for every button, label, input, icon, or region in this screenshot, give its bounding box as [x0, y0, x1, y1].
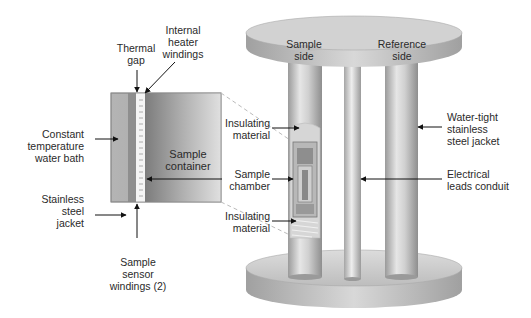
label-line: Insulating [214, 210, 270, 222]
label-line: side [372, 50, 432, 62]
label-line: Stainless [20, 193, 84, 205]
label-sample-side: Sample side [280, 38, 328, 62]
label-line: side [280, 50, 328, 62]
label-reference-side: Reference side [372, 38, 432, 62]
label-line: Sample [214, 168, 270, 180]
label-line: temperature [10, 140, 84, 152]
label-internal-heater-windings: Internal heater windings [158, 24, 208, 60]
label-line: steel jacket [447, 135, 527, 147]
label-insulating-material-top: Insulating material [214, 117, 270, 141]
label-line: material [214, 222, 270, 234]
label-line: container [158, 160, 218, 172]
label-line: windings (2) [102, 280, 174, 292]
label-line: leads conduit [447, 180, 527, 192]
label-line: material [214, 129, 270, 141]
label-line: Constant [10, 128, 84, 140]
label-line: steel [20, 205, 84, 217]
label-line: gap [111, 54, 161, 66]
label-line: windings [158, 48, 208, 60]
label-thermal-gap: Thermal gap [111, 42, 161, 66]
label-line: Insulating [214, 117, 270, 129]
label-electrical-leads-conduit: Electrical leads conduit [447, 168, 527, 192]
label-water-bath: Constant temperature water bath [10, 128, 84, 164]
label-stainless-steel-jacket: Stainless steel jacket [20, 193, 84, 229]
label-line: Sample [158, 148, 218, 160]
label-line: Water-tight [447, 111, 527, 123]
label-line: Sample [102, 256, 174, 268]
label-insulating-material-bottom: Insulating material [214, 210, 270, 234]
label-sample-container: Sample container [158, 148, 218, 172]
label-line: chamber [214, 180, 270, 192]
label-line: Internal [158, 24, 208, 36]
label-line: heater [158, 36, 208, 48]
label-line: water bath [10, 152, 84, 164]
label-line: jacket [20, 217, 84, 229]
label-line: Thermal [111, 42, 161, 54]
label-line: stainless [447, 123, 527, 135]
label-line: Reference [372, 38, 432, 50]
label-sample-chamber: Sample chamber [214, 168, 270, 192]
label-line: sensor [102, 268, 174, 280]
label-line: Electrical [447, 168, 527, 180]
label-water-tight-jacket: Water-tight stainless steel jacket [447, 111, 527, 147]
label-line: Sample [280, 38, 328, 50]
label-sample-sensor-windings: Sample sensor windings (2) [102, 256, 174, 292]
